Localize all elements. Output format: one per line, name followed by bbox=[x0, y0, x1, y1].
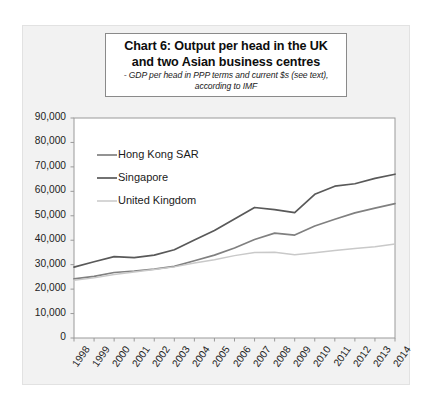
chart-container: 010,00020,00030,00040,00050,00060,00070,… bbox=[22, 25, 410, 385]
legend-label-hong-kong-sar: Hong Kong SAR bbox=[118, 148, 199, 160]
y-axis-tick-label: 60,000 bbox=[23, 184, 66, 195]
y-axis-tick-label: 90,000 bbox=[23, 111, 66, 122]
y-axis-tick-label: 30,000 bbox=[23, 258, 66, 269]
legend-label-singapore: Singapore bbox=[118, 171, 168, 183]
y-axis-tick-label: 50,000 bbox=[23, 209, 66, 220]
y-axis-tick-label: 0 bbox=[23, 331, 66, 342]
chart-title-line-2: and two Asian business centres bbox=[110, 55, 342, 71]
x-axis-ticks bbox=[74, 338, 395, 342]
y-axis-ticks bbox=[71, 118, 75, 338]
legend-label-united-kingdom: United Kingdom bbox=[118, 194, 196, 206]
chart-subtitle-line-1: - GDP per head in PPP terms and current … bbox=[110, 70, 342, 81]
chart-title-box: Chart 6: Output per head in the UK and t… bbox=[105, 33, 347, 97]
y-axis-tick-label: 20,000 bbox=[23, 282, 66, 293]
y-axis-tick-label: 10,000 bbox=[23, 307, 66, 318]
chart-subtitle-line-2: according to IMF bbox=[110, 81, 342, 92]
y-axis-tick-label: 80,000 bbox=[23, 135, 66, 146]
chart-title-line-1: Chart 6: Output per head in the UK bbox=[110, 39, 342, 55]
y-axis-tick-label: 40,000 bbox=[23, 233, 66, 244]
y-axis-tick-label: 70,000 bbox=[23, 160, 66, 171]
